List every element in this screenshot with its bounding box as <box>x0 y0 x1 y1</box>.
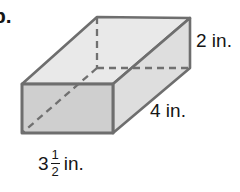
prism-front-face <box>22 84 113 133</box>
width-fraction: 1 2 <box>51 148 60 179</box>
width-fraction-numerator: 1 <box>51 148 60 162</box>
figure-container: b. 2 in. 4 in. 3 1 2 in. <box>0 0 240 192</box>
width-unit: in. <box>64 154 84 173</box>
width-fraction-denominator: 2 <box>51 165 60 179</box>
rectangular-prism-drawing <box>0 0 240 192</box>
problem-item-letter: b. <box>0 5 12 26</box>
dimension-label-height: 2 in. <box>196 31 232 50</box>
dimension-label-depth: 4 in. <box>150 101 186 120</box>
width-whole-number: 3 <box>38 154 49 173</box>
dimension-label-width: 3 1 2 in. <box>38 148 84 179</box>
